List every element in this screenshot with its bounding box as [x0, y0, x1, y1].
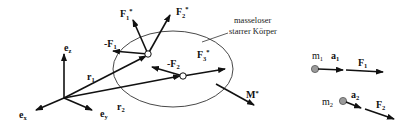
F1-arrow: [346, 70, 383, 72]
label-r2: r2: [117, 101, 125, 113]
label-ey: ey: [100, 108, 108, 120]
label-m2: m2: [322, 96, 333, 108]
label-F2-star: F2*: [176, 5, 189, 19]
coordinate-system: [36, 54, 92, 110]
F3-star-arrow: [183, 69, 225, 76]
force-point-1: [145, 51, 151, 57]
mass-1-group: m1 a1 F1: [311, 50, 383, 73]
label-r1: r1: [87, 71, 95, 83]
label-F1: F1: [358, 57, 367, 69]
axis-ey-arrow: [64, 98, 92, 110]
r2-vector: [64, 76, 180, 98]
mass-2-group: m2 a2 F2: [322, 89, 394, 119]
F2-arrow: [365, 109, 394, 119]
r1-vector: [64, 56, 146, 98]
F1-star-arrow: [133, 20, 148, 54]
label-F2: F2: [376, 99, 385, 111]
body-label-line2: starrer Körper: [229, 26, 277, 36]
a2-arrow: [346, 102, 361, 108]
label-neg-F1: -F1: [104, 38, 117, 50]
mass-2-dot: [339, 97, 346, 104]
mass-1-dot: [311, 65, 318, 72]
label-a2: a2: [351, 89, 359, 101]
force-point-2: [180, 73, 186, 79]
label-a1: a1: [331, 50, 339, 62]
a1-arrow: [318, 69, 343, 70]
label-ex: ex: [19, 109, 27, 121]
label-M-star: M*: [246, 89, 259, 100]
diagram-canvas: ez ex ey r1 r2 F1* F2* -F1 -F2 F3* M* ma…: [0, 0, 410, 132]
label-neg-F2: -F2: [167, 58, 180, 70]
label-F1-star: F1*: [120, 7, 133, 21]
body-label-line1: masseloser: [234, 15, 271, 25]
label-ez: ez: [64, 42, 71, 54]
rigid-body-ellipse: [113, 31, 233, 107]
label-F3-star: F3*: [197, 48, 210, 62]
F2-star-arrow: [148, 15, 170, 54]
axis-ex-arrow: [36, 98, 64, 110]
label-m1: m1: [312, 50, 323, 62]
